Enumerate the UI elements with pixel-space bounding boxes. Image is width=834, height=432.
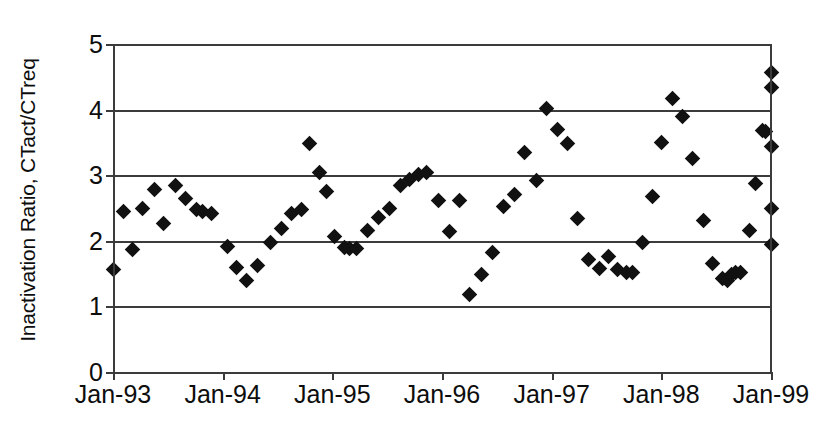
data-point-marker [538, 101, 554, 117]
data-point-marker [135, 200, 151, 216]
data-point-marker [516, 145, 532, 161]
data-point-marker [549, 122, 565, 138]
data-point-marker [274, 221, 290, 237]
y-axis-tick-label: 4 [63, 98, 103, 123]
y-axis-tick-labels: 012345 [63, 0, 103, 432]
data-point-marker [741, 223, 757, 239]
y-axis-tick-label: 3 [63, 163, 103, 188]
data-point-marker [116, 203, 132, 219]
x-axis-tick-mark [552, 372, 554, 380]
gridline [113, 241, 771, 243]
data-point-marker [156, 216, 172, 232]
x-axis-tick-mark [771, 372, 773, 380]
data-point-marker [239, 272, 255, 288]
data-point-marker [168, 178, 184, 194]
data-point-marker [748, 175, 764, 191]
data-point-marker [507, 187, 523, 203]
data-point-marker [371, 210, 387, 226]
data-point-marker [485, 245, 501, 261]
x-axis-tick-mark [661, 372, 663, 380]
plot-area [113, 44, 771, 372]
y-axis-tick-mark [106, 306, 113, 308]
y-axis-tick-label: 1 [63, 294, 103, 319]
data-point-marker [684, 151, 700, 167]
data-point-marker [431, 192, 447, 208]
gridline [113, 306, 771, 308]
gridline [113, 175, 771, 177]
chart-figure: Inactivation Ratio, CTact/CTreq 012345 J… [0, 0, 834, 432]
data-point-marker [496, 199, 512, 215]
data-point-marker [462, 287, 478, 303]
data-point-marker [319, 184, 335, 200]
data-point-marker [382, 200, 398, 216]
data-point-marker [570, 211, 586, 227]
y-axis-tick-label: 2 [63, 229, 103, 254]
y-axis-tick-mark [106, 110, 113, 112]
x-axis-tick-mark [332, 372, 334, 380]
data-point-marker [705, 256, 721, 272]
data-point-marker [645, 189, 661, 205]
data-point-marker [654, 135, 670, 151]
data-point-marker [592, 261, 608, 277]
y-axis-title: Inactivation Ratio, CTact/CTreq [8, 10, 48, 390]
x-axis-tick-label: Jan-99 [706, 382, 834, 407]
x-axis-tick-mark [113, 372, 115, 380]
x-axis-tick-mark [442, 372, 444, 380]
data-point-marker [302, 135, 318, 151]
data-point-marker [250, 257, 266, 273]
y-axis-line [113, 44, 115, 374]
data-point-marker [559, 136, 575, 152]
data-point-marker [229, 260, 245, 276]
y-axis-tick-mark [106, 175, 113, 177]
gridline [113, 44, 771, 46]
data-point-marker [695, 213, 711, 229]
data-point-marker [178, 191, 194, 207]
y-axis-tick-mark [106, 372, 113, 374]
data-point-marker [601, 249, 617, 265]
x-axis-tick-mark [223, 372, 225, 380]
y-axis-tick-mark [106, 44, 113, 46]
data-point-marker [311, 165, 327, 181]
right-axis-line [770, 44, 772, 374]
y-axis-tick-label: 5 [63, 32, 103, 57]
data-point-marker [147, 182, 163, 198]
data-point-marker [263, 234, 279, 250]
data-point-marker [125, 242, 141, 258]
data-point-marker [360, 223, 376, 239]
gridline [113, 110, 771, 112]
data-point-marker [474, 267, 490, 283]
y-axis-tick-mark [106, 241, 113, 243]
data-point-marker [665, 91, 681, 107]
data-point-marker [442, 224, 458, 240]
data-point-marker [635, 235, 651, 251]
data-point-marker [452, 192, 468, 208]
